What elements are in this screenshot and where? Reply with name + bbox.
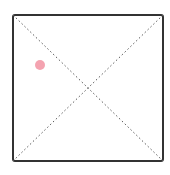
pink-dot-marker[interactable] [35,60,45,70]
diagram-canvas [0,0,170,175]
